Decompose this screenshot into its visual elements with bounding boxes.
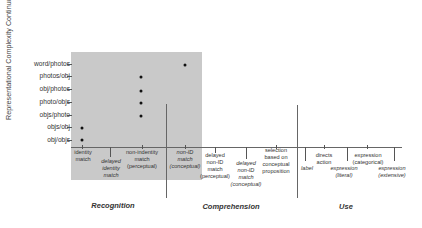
xlabel-delayed-non-id-perceptual: delayednon-IDmatch(perceptual) [200, 152, 230, 180]
ytick [67, 140, 72, 141]
ytick-label: word/photos [34, 60, 70, 68]
xlabel-delayed-identity-match: delayedidentitymatch [101, 158, 121, 179]
data-point [140, 76, 143, 79]
xtick [347, 147, 348, 161]
ytick-label: obj/photos [40, 85, 70, 93]
xtick [110, 147, 111, 157]
data-point [184, 64, 187, 67]
y-axis-label: Representational Complexity Continuum [4, 0, 16, 120]
data-point [140, 90, 143, 93]
xlabel-directs-action: directsaction [316, 152, 332, 166]
xlabel-non-identity-perceptual: non-indentitymatch(perceptual) [126, 149, 158, 170]
data-point [81, 139, 84, 142]
ytick-label: objs/photo [40, 111, 70, 119]
xtick [394, 147, 395, 161]
data-point [81, 127, 84, 130]
ytick [67, 89, 72, 90]
xtick [246, 147, 247, 159]
xlabel-selection-conceptual-proposition: selectionbased onconceptualproposition [262, 147, 289, 175]
data-point [140, 102, 143, 105]
xlabel-label: label [301, 165, 313, 172]
xtick [324, 145, 325, 149]
xlabel-expression-categorical: expression(categorical) [353, 152, 384, 166]
ytick [67, 64, 72, 65]
xtick [367, 145, 368, 149]
group-label-recognition: Recognition [91, 201, 134, 210]
xlabel-delayed-non-id-conceptual: delayednon-IDmatch(conceptual) [231, 160, 262, 188]
xtick [305, 147, 306, 161]
ytick-label: photo/objs [40, 98, 70, 106]
xlabel-expression-extensive: expression(extensive) [378, 165, 405, 179]
xlabel-non-id-conceptual: non-IDmatch(conceptual) [170, 149, 201, 170]
xlabel-expression-literal: expression(literal) [330, 165, 357, 179]
group-label-use: Use [339, 202, 353, 211]
divider-comprehension-use [297, 105, 298, 198]
ytick [67, 102, 72, 103]
ytick-label: photos/obj [40, 72, 70, 80]
ytick [67, 115, 72, 116]
ytick [67, 127, 72, 128]
xlabel-identity-match: identitymatch [74, 149, 92, 163]
group-label-comprehension: Comprehension [202, 202, 259, 211]
data-point [140, 115, 143, 118]
x-axis-line [71, 147, 402, 148]
divider-recognition-comprehension [166, 104, 167, 198]
ytick [67, 76, 72, 77]
